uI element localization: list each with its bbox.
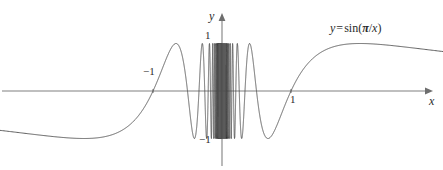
equation-annotation: y = sin(π/x) [330,22,381,34]
x-tick-label-1: 1 [290,94,296,105]
equation-close-paren: ) [377,21,381,35]
x-axis-label: x [429,95,434,107]
y-axis-label: y [209,10,214,22]
y-tick-label-neg1: −1 [199,134,211,145]
function-plot-figure: y x 1 −1 −1 1 y = sin(π/x) [0,0,443,170]
x-tick-label-neg1: −1 [143,66,155,77]
y-tick-label-1: 1 [205,30,211,41]
equation-function: sin( [344,21,362,35]
